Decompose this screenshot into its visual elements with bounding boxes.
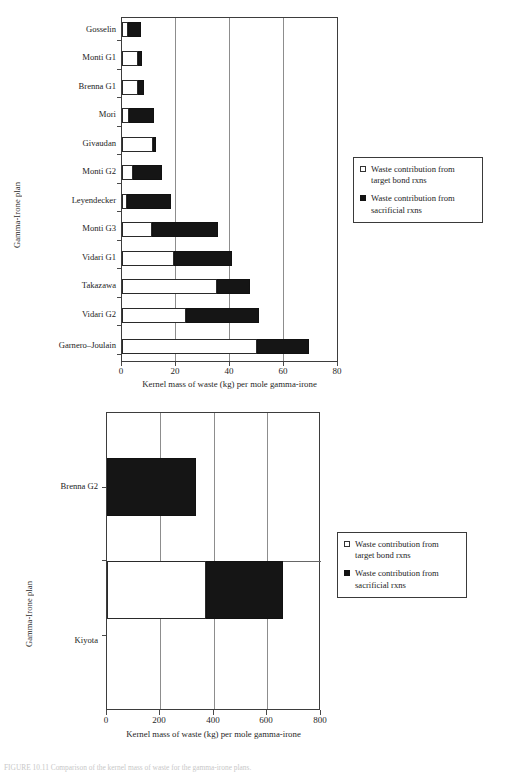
bar-brenna-g2 [107, 458, 196, 516]
category-label: Monti G1 [40, 53, 116, 62]
legend-item-sacrificial: Waste contribution from sacrificial rxns [360, 193, 475, 215]
legend-top: Waste contribution from target bond rxns… [353, 157, 483, 223]
filled-square-icon [344, 570, 350, 576]
bar-givaudan [122, 137, 156, 152]
y-tick [102, 560, 106, 561]
category-label: Vidari G1 [40, 253, 116, 262]
x-tick-label: 600 [259, 715, 273, 725]
category-label: Takazawa [40, 281, 116, 290]
x-tick-label: 0 [119, 366, 124, 376]
bar-leyendecker [122, 194, 171, 209]
x-axis-title-bottom: Kernel mass of waste (kg) per mole gamma… [95, 729, 332, 739]
bar-segment-sacrificial [206, 561, 283, 619]
x-tick-label: 0 [104, 715, 109, 725]
category-label: Leyendecker [30, 196, 116, 205]
bar-monti-g1 [122, 51, 142, 66]
y-tick [117, 240, 121, 241]
y-tick [102, 635, 106, 636]
y-axis-title-bottom: Gamma-Irone plan [24, 517, 34, 647]
x-tick-label: 20 [171, 366, 180, 376]
bar-vidari-g2 [122, 308, 259, 323]
y-tick [117, 183, 121, 184]
gridline-60 [283, 18, 284, 361]
bar-segment-sacrificial [257, 339, 309, 354]
bar-gosselin [122, 22, 141, 37]
category-label: Givaudan [40, 139, 116, 148]
y-tick [117, 126, 121, 127]
legend-label: Waste contribution from target bond rxns [371, 164, 455, 186]
category-label: Brenna G1 [40, 82, 116, 91]
bar-segment-sacrificial [217, 279, 250, 294]
category-label: Gosselin [40, 25, 116, 34]
y-tick [117, 325, 121, 326]
open-square-icon [360, 166, 366, 172]
legend-item-target: Waste contribution from target bond rxns [360, 164, 475, 186]
bar-takazawa [122, 279, 250, 294]
bar-segment-sacrificial [152, 222, 218, 237]
bar-garnero-joulain [122, 339, 309, 354]
bar-segment-sacrificial [186, 308, 259, 323]
y-tick [117, 40, 121, 41]
bar-segment-sacrificial [127, 194, 171, 209]
bar-segment-sacrificial [153, 137, 156, 152]
bar-segment-target [122, 80, 138, 95]
bar-segment-sacrificial [107, 458, 196, 516]
bar-monti-g3 [122, 222, 218, 237]
legend-label: Waste contribution from sacrificial rxns [355, 568, 439, 590]
y-tick [117, 69, 121, 70]
y-tick [117, 154, 121, 155]
bar-segment-target [122, 308, 186, 323]
chart-top: Gamma-Irone plan Gosselin Monti G1 Brenn… [0, 0, 512, 392]
bar-segment-target [122, 222, 152, 237]
bar-mori [122, 108, 154, 123]
y-axis-title-top: Gamma-Irone plan [12, 118, 22, 248]
legend-label: Waste contribution from sacrificial rxns [371, 193, 455, 215]
bar-segment-target [122, 51, 138, 66]
y-tick [117, 97, 121, 98]
y-tick [102, 487, 106, 488]
x-tick-label: 80 [333, 366, 342, 376]
bar-segment-target [107, 561, 206, 619]
x-tick-label: 60 [279, 366, 288, 376]
chart-bottom: Gamma-Irone plan Brenna G2 Kiyota 0 200 … [0, 392, 512, 770]
bar-segment-target [122, 279, 217, 294]
category-label: Garnero–Joulain [22, 341, 116, 350]
legend-item-sacrificial: Waste contribution from sacrificial rxns [344, 568, 459, 590]
filled-square-icon [360, 195, 366, 201]
bar-monti-g2 [122, 165, 162, 180]
figure-caption: FIGURE 10.11 Comparison of the kernel ma… [4, 763, 251, 772]
bar-segment-target [122, 137, 153, 152]
category-label: Vidari G2 [40, 310, 116, 319]
bar-vidari-g1 [122, 251, 232, 266]
legend-label: Waste contribution from target bond rxns [355, 539, 439, 561]
bar-segment-target [122, 251, 174, 266]
category-label: Mori [40, 110, 116, 119]
bar-kiyota [107, 561, 283, 619]
x-axis-title-top: Kernel mass of waste (kg) per mole gamma… [111, 379, 348, 389]
y-tick [117, 268, 121, 269]
category-label: Monti G2 [40, 167, 116, 176]
x-tick-label: 40 [225, 366, 234, 376]
bar-segment-sacrificial [128, 22, 141, 37]
x-tick-label: 200 [152, 715, 166, 725]
x-tick-label: 800 [313, 715, 327, 725]
category-label: Brenna G2 [28, 482, 98, 491]
open-square-icon [344, 541, 350, 547]
bar-segment-sacrificial [129, 108, 154, 123]
legend-item-target: Waste contribution from target bond rxns [344, 539, 459, 561]
y-tick [117, 354, 121, 355]
y-tick [117, 211, 121, 212]
bar-segment-sacrificial [138, 51, 142, 66]
x-tick-label: 400 [206, 715, 220, 725]
plot-area-top [121, 17, 338, 362]
category-label: Kiyota [28, 636, 98, 645]
legend-bottom: Waste contribution from target bond rxns… [337, 532, 467, 598]
bar-segment-target [122, 108, 129, 123]
plot-area-bottom [106, 412, 320, 710]
bar-segment-sacrificial [174, 251, 232, 266]
category-label: Monti G3 [40, 224, 116, 233]
y-tick [117, 297, 121, 298]
bar-segment-sacrificial [133, 165, 162, 180]
bar-segment-target [122, 339, 257, 354]
bar-segment-sacrificial [138, 80, 144, 95]
